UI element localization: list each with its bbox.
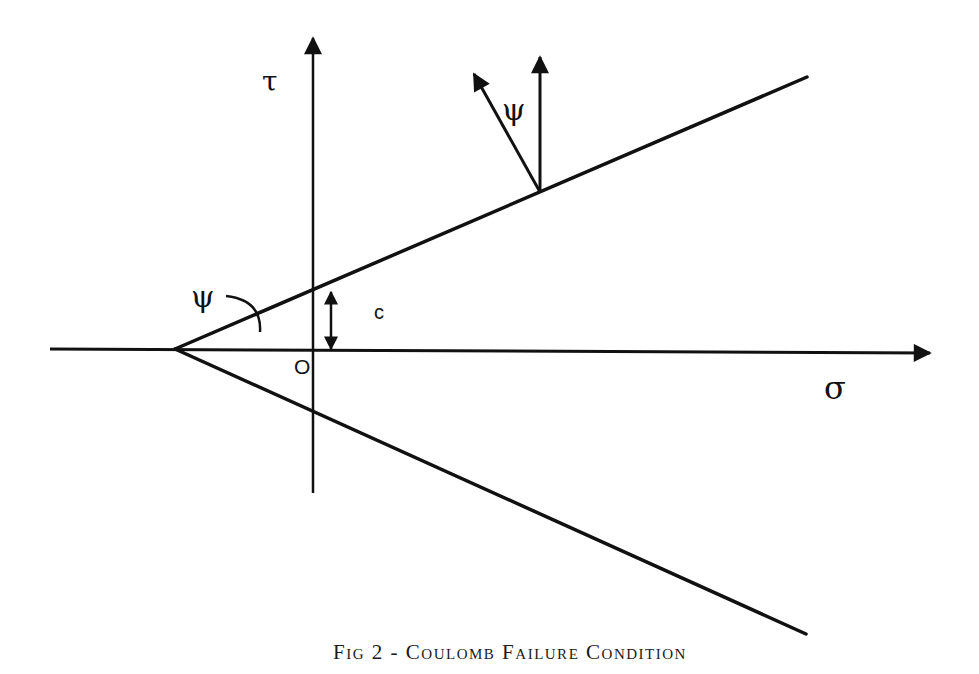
failure-envelope-upper (175, 77, 807, 349)
sigma-axis-label: σ (824, 372, 846, 404)
figure-caption: Fig 2 - Coulomb Failure Condition (0, 640, 979, 665)
apex-angle-label: ψ (191, 282, 215, 312)
origin-label: O (294, 356, 310, 377)
cohesion-label: c (374, 302, 384, 322)
failure-envelope-lower (175, 349, 806, 634)
tau-axis-label: τ (262, 68, 278, 96)
flow-angle-label: ψ (502, 95, 526, 125)
coulomb-diagram (0, 0, 979, 674)
